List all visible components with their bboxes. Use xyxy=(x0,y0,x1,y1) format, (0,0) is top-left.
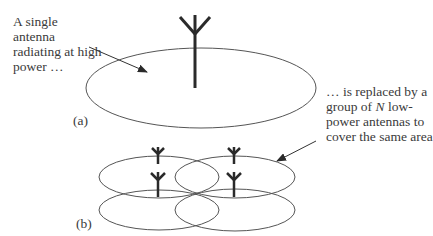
caption-line: A single xyxy=(13,14,101,29)
arrow-b xyxy=(277,141,316,161)
antenna-icon-large xyxy=(180,15,210,88)
antenna-icon-small-bottom-right xyxy=(227,172,241,197)
antenna-icon-small-top-left xyxy=(152,147,164,164)
caption-variable-n: N xyxy=(376,99,385,114)
caption-single-antenna: A single antenna radiating at high power… xyxy=(13,14,101,74)
antenna-icon-small-bottom-left xyxy=(151,172,165,197)
caption-line: radiating at high xyxy=(13,44,101,59)
caption-line: power … xyxy=(13,59,101,74)
caption-line: power antennas to xyxy=(326,114,433,129)
caption-line: cover the same area xyxy=(326,129,433,144)
panel-label-a: (a) xyxy=(73,113,88,128)
panel-label-b: (b) xyxy=(76,216,92,231)
caption-line: group of N low- xyxy=(326,99,433,114)
coverage-ellipse-large xyxy=(86,48,316,128)
caption-line: antenna xyxy=(13,29,101,44)
caption-fragment: group of xyxy=(326,99,376,114)
antenna-icon-small-top-right xyxy=(228,147,240,164)
caption-fragment: low- xyxy=(385,99,413,114)
caption-line: … is replaced by a xyxy=(326,84,433,99)
caption-antenna-group: … is replaced by a group of N low- power… xyxy=(326,84,433,144)
